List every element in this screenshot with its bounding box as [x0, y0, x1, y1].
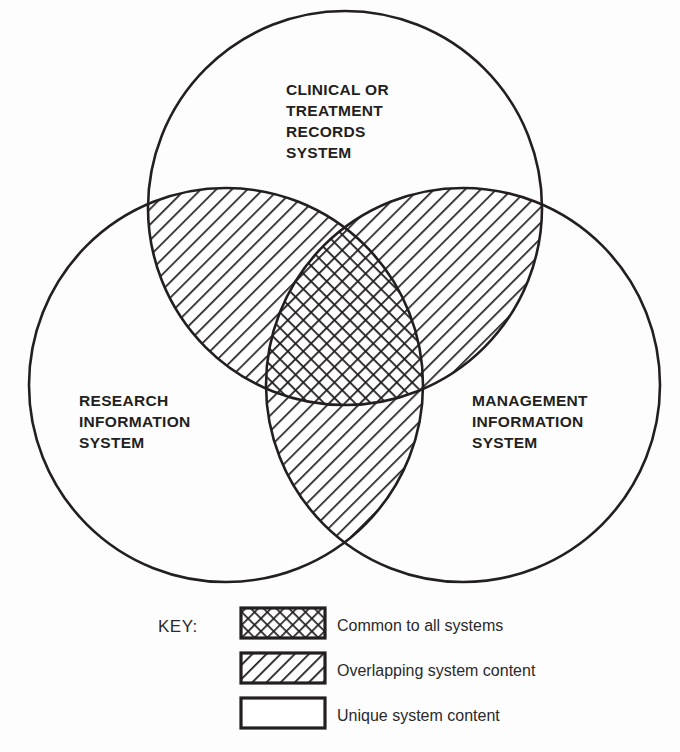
research-label-line-2: INFORMATION — [79, 413, 191, 430]
legend-item-common-to-all: Common to all systems — [241, 608, 503, 638]
management-label-line-3: SYSTEM — [472, 434, 538, 451]
clinical-label-line-2: TREATMENT — [286, 102, 383, 119]
label-clinical-treatment-records-system: CLINICAL OR TREATMENT RECORDS SYSTEM — [286, 81, 389, 161]
research-label-line-3: SYSTEM — [79, 434, 145, 451]
label-research-information-system: RESEARCH INFORMATION SYSTEM — [79, 392, 191, 451]
legend-swatch-empty — [241, 698, 325, 728]
management-label-line-2: INFORMATION — [472, 413, 584, 430]
clinical-label-line-1: CLINICAL OR — [286, 81, 389, 98]
legend: KEY: Common to all systems Overlapping s… — [158, 608, 536, 728]
legend-label-common-to-all: Common to all systems — [337, 617, 503, 634]
legend-title: KEY: — [158, 617, 198, 636]
legend-label-overlapping: Overlapping system content — [337, 662, 536, 679]
management-label-line-1: MANAGEMENT — [472, 392, 588, 409]
legend-swatch-cross-hatch — [241, 608, 325, 638]
venn-diagram-figure: CLINICAL OR TREATMENT RECORDS SYSTEM RES… — [0, 0, 680, 752]
clinical-label-line-3: RECORDS — [286, 123, 366, 140]
legend-item-overlapping: Overlapping system content — [241, 653, 536, 683]
legend-item-unique: Unique system content — [241, 698, 500, 728]
label-management-information-system: MANAGEMENT INFORMATION SYSTEM — [472, 392, 588, 451]
clinical-label-line-4: SYSTEM — [286, 144, 352, 161]
legend-swatch-diagonal-hatch — [241, 653, 325, 683]
research-label-line-1: RESEARCH — [79, 392, 168, 409]
legend-label-unique: Unique system content — [337, 707, 500, 724]
